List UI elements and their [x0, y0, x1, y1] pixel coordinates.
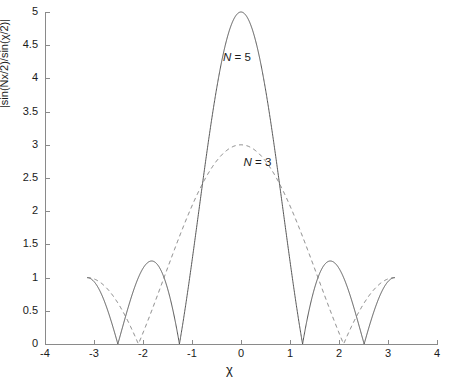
x-tick-label: 1	[275, 348, 305, 359]
y-tick-label: 0.5	[0, 305, 38, 316]
x-tick-label: -2	[128, 348, 158, 359]
y-axis-label: |sin(Nx/2)/sin(χ/2)|	[0, 19, 10, 108]
x-tick-mark	[437, 340, 438, 345]
y-tick-label: 5	[0, 6, 38, 17]
y-tick-label: 2	[0, 205, 38, 216]
y-tick-label: 2.5	[0, 172, 38, 183]
annotation-n-3: N = 3	[244, 156, 272, 168]
x-tick-label: -4	[30, 348, 60, 359]
x-tick-label: -1	[177, 348, 207, 359]
curve-n-3	[87, 145, 395, 344]
annotation-n-5-equals: =	[231, 51, 244, 63]
x-tick-label: -3	[79, 348, 109, 359]
x-tick-label: 4	[422, 348, 452, 359]
y-tick-label: 1	[0, 272, 38, 283]
x-tick-label: 3	[373, 348, 403, 359]
annotation-n-3-variable: N	[244, 156, 252, 168]
annotation-n-5: N = 5	[223, 51, 251, 63]
x-axis-label: χ	[0, 362, 459, 377]
figure-canvas: 00.511.522.533.544.55 -4-3-2-101234 |sin…	[0, 0, 459, 386]
annotation-n-5-value: 5	[244, 51, 250, 63]
x-tick-label: 2	[324, 348, 354, 359]
y-tick-label: 1.5	[0, 238, 38, 249]
y-tick-label: 3	[0, 139, 38, 150]
annotation-n-3-value: 3	[265, 156, 271, 168]
x-tick-label: 0	[226, 348, 256, 359]
annotation-n-3-equals: =	[252, 156, 265, 168]
